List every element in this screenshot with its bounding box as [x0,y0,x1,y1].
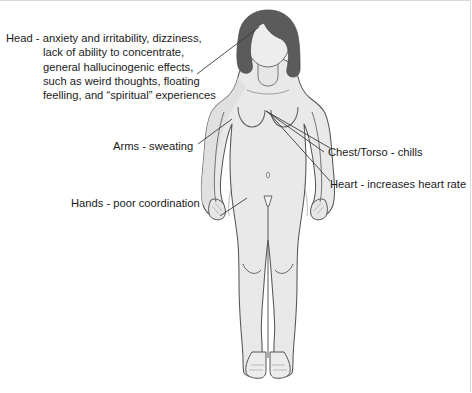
diagram-canvas: Head - anxiety and irritability, dizzine… [0,0,472,393]
callout-hands: Hands - poor coordination [71,196,200,210]
callout-head-line-1: Head - anxiety and irritability, dizzine… [6,32,202,44]
callout-head-line-5: feelling, and “spiritual” experiences [6,89,216,101]
callout-chest: Chest/Torso - chills [328,145,423,159]
callout-heart: Heart - increases heart rate [330,177,466,191]
callout-head: Head - anxiety and irritability, dizzine… [6,31,216,102]
callout-head-line-4: such as weird thoughts, floating [6,75,200,87]
callout-arms: Arms - sweating [113,139,193,153]
callout-head-line-3: general hallucinogenic effects, [6,61,193,73]
body-group [201,10,334,378]
callout-head-line-2: lack of ability to concentrate, [6,46,184,58]
